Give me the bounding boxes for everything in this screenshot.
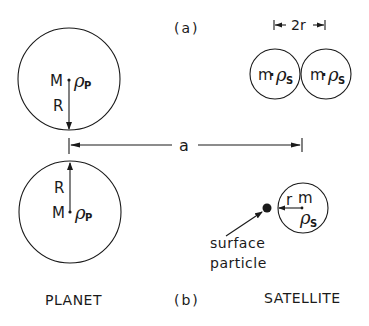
particle-label-line2: particle <box>210 255 267 271</box>
satellite-b-mass: m <box>298 189 313 207</box>
planet-b-radius-label: R <box>54 179 64 197</box>
planet-a-mass: M <box>50 72 63 90</box>
planet-b-density-sub: P <box>85 212 92 223</box>
particle-label-line1: surface <box>210 235 265 251</box>
satellite-right-sub: S <box>338 75 345 86</box>
diameter-label: 2r <box>291 17 306 33</box>
planet-label: PLANET <box>45 292 102 308</box>
roche-limit-diagram: (a) M ρ P R 2r m · ρ S m · ρ S <box>0 0 369 326</box>
satellite-right-dot: · <box>321 66 327 84</box>
particle-pointer-arrow <box>226 212 262 236</box>
planet-b: R M ρ P <box>19 161 121 263</box>
satellite-pair: m · ρ S m · ρ S <box>250 49 351 99</box>
satellite-b-sub: S <box>310 218 317 229</box>
panel-a-label: (a) <box>174 20 200 36</box>
satellite-label: SATELLITE <box>264 290 341 306</box>
satellite-b-radius-label: r <box>286 191 293 209</box>
satellite-b: r m ρ S surface particle <box>210 183 328 271</box>
planet-b-mass: M <box>52 204 65 222</box>
satellite-left-sub: S <box>286 75 293 86</box>
satellite-left-dot: · <box>269 66 275 84</box>
surface-particle <box>263 204 272 213</box>
diameter-dimension: 2r <box>274 17 325 33</box>
planet-a-radius-label: R <box>53 97 63 115</box>
panel-b-label: (b) <box>174 292 200 308</box>
distance-dimension: a <box>69 136 302 155</box>
planet-a-density-sub: P <box>84 80 91 91</box>
planet-a: M ρ P R <box>18 28 120 130</box>
distance-label: a <box>179 136 189 155</box>
